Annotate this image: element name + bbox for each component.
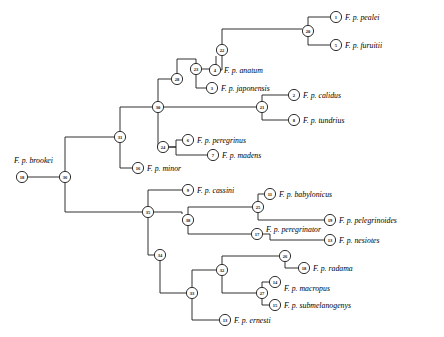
node-number: 24 [161, 145, 166, 150]
taxon-node-madens: 7 [207, 149, 218, 160]
taxon-label-ernesti: F. p. ernesti [233, 316, 271, 325]
taxon-label-babylonicus: F. p. babylonicus [278, 190, 332, 199]
node-number: 30 [156, 105, 161, 110]
node-number: 13 [328, 238, 333, 243]
edge-21-8 [262, 113, 288, 120]
edge-27-14 [262, 282, 269, 287]
taxon-label-japonensis: F. p. japonensis [220, 84, 270, 93]
edge-24-7 [169, 147, 207, 155]
taxon-node-minor: 16 [132, 162, 143, 173]
taxon-label-peregrinus: F. p. peregrinus [196, 136, 246, 145]
node-number: 34 [158, 253, 163, 258]
edge-38-25 [188, 207, 252, 214]
edge-36-31 [65, 137, 114, 171]
edge-24-6 [169, 140, 182, 147]
edge-22-20 [222, 29, 302, 44]
taxon-label-submelanogenys: F. p. submelanogenys [283, 301, 351, 310]
cladogram-canvas: 2022232821303124363525382634322733 18154… [0, 0, 444, 337]
edge-35-9 [148, 190, 182, 206]
taxon-node-anatum: 4 [209, 64, 220, 75]
node-number: 15 [273, 303, 278, 308]
node-number: 11 [268, 192, 273, 197]
edge-33-13ernesti [192, 299, 219, 320]
taxon-label-macropus: F. p. macropus [283, 284, 330, 293]
edge-30-28 [158, 79, 171, 101]
edge-21-2 [262, 95, 288, 101]
taxon-node-calidus: 2 [288, 89, 299, 100]
edge-20-1 [308, 17, 330, 25]
internal-node-25: 25 [252, 201, 263, 212]
node-number: 13 [223, 318, 228, 323]
node-number: 22 [220, 48, 225, 53]
edge-32-27 [222, 276, 256, 293]
edge-31-30 [120, 107, 152, 131]
internal-node-28: 28 [171, 73, 182, 84]
taxon-node-peregrinator: 17 [251, 228, 262, 239]
taxon-node-babylonicus: 11 [264, 188, 275, 199]
internal-node-35: 35 [142, 206, 153, 217]
edge-32-26 [222, 256, 279, 264]
node-number: 17 [255, 232, 260, 237]
edge-34-33 [160, 261, 186, 293]
taxon-labels: F. p. brookeiF. p. pealeiF. p. furuitiiF… [13, 13, 397, 325]
internal-node-36: 36 [59, 171, 70, 182]
node-number: 27 [260, 291, 265, 296]
internal-node-38: 38 [182, 214, 193, 225]
taxon-node-pelegrinoides: 19 [324, 214, 335, 225]
node-number: 28 [175, 77, 180, 82]
edge-20-5 [308, 37, 330, 45]
taxon-label-pelegrinoides: F. p. pelegrinoides [338, 216, 397, 225]
node-number: 36 [63, 175, 68, 180]
internal-nodes: 2022232821303124363525382634322733 [59, 25, 313, 298]
taxon-label-minor: F. p. minor [146, 164, 182, 173]
node-number: 16 [136, 166, 141, 171]
taxon-node-macropus: 14 [269, 276, 280, 287]
taxon-node-pealei: 1 [330, 11, 341, 22]
internal-node-34: 34 [154, 249, 165, 260]
internal-node-20: 20 [302, 25, 313, 36]
taxon-label-peregrinator: F. p. peregrinator [265, 225, 322, 234]
node-number: 19 [328, 218, 333, 223]
internal-node-31: 31 [114, 131, 125, 142]
taxon-node-tundrius: 8 [288, 114, 299, 125]
edge-38-17 [188, 226, 251, 234]
node-number: 33 [190, 291, 195, 296]
edge-25-11 [258, 194, 264, 201]
taxon-label-madens: F. p. madens [221, 151, 261, 160]
taxon-label-radama: F. p. radama [312, 264, 353, 273]
node-number: 25 [256, 205, 261, 210]
taxon-node-furuitii: 5 [330, 39, 341, 50]
taxon-label-pealei: F. p. pealei [344, 13, 380, 22]
node-number: 18 [302, 266, 307, 271]
internal-node-33: 33 [186, 287, 197, 298]
internal-node-32: 32 [216, 264, 227, 275]
node-number: 35 [146, 210, 151, 215]
edge-33-32 [192, 270, 216, 287]
internal-node-22: 22 [216, 44, 227, 55]
taxon-node-nesiotes: 13 [324, 234, 335, 245]
internal-node-30: 30 [152, 101, 163, 112]
edge-27-15 [262, 299, 269, 305]
node-number: 26 [283, 254, 288, 259]
node-number: 14 [273, 280, 278, 285]
taxon-node-brookei: 18 [16, 171, 27, 182]
taxon-node-peregrinus: 6 [182, 134, 193, 145]
edge-30-24 [157, 113, 158, 147]
taxon-label-furuitii: F. p. furuitii [344, 41, 382, 50]
node-number: 21 [260, 105, 265, 110]
taxon-node-cassini: 9 [182, 184, 193, 195]
phylogenetic-tree-figure: 2022232821303124363525382634322733 18154… [0, 0, 444, 337]
taxon-label-brookei: F. p. brookei [13, 156, 53, 165]
internal-node-24: 24 [157, 141, 168, 152]
taxon-label-anatum: F. p. anatum [223, 66, 263, 75]
taxon-node-radama: 18 [298, 262, 309, 273]
node-number: 32 [220, 268, 225, 273]
internal-node-23: 23 [190, 63, 201, 74]
node-number: 38 [186, 218, 191, 223]
taxon-label-cassini: F. p. cassini [196, 186, 234, 195]
node-number: 18 [20, 175, 25, 180]
edge-25-19 [258, 213, 324, 220]
edge-26-18radama [285, 262, 298, 268]
edge-35-34 [148, 218, 154, 255]
taxon-label-nesiotes: F. p. nesiotes [338, 236, 380, 245]
